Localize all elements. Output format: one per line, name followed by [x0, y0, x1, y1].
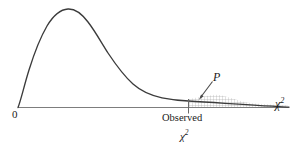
p-value-label: P [213, 71, 220, 83]
observed-chi-squared-label: χ2 [180, 129, 189, 142]
observed-label: Observed [162, 113, 202, 124]
x-axis-label: χ2 [275, 97, 284, 110]
origin-label: 0 [12, 109, 18, 120]
chi-square-plot [0, 0, 301, 152]
x-axis-label-exponent: 2 [280, 96, 284, 105]
observed-chi-exponent: 2 [185, 128, 189, 137]
density-curve [18, 9, 289, 108]
chi-square-distribution-figure: 0 χ2 P Observed χ2 [0, 0, 301, 152]
